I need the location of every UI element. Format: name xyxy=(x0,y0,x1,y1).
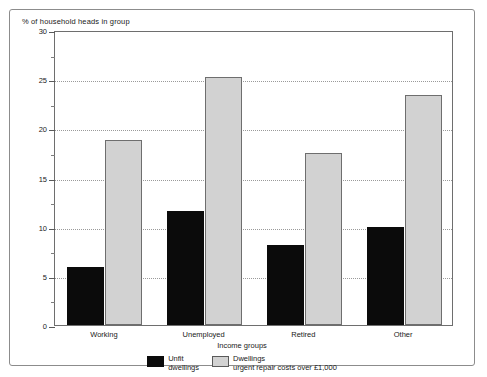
legend-swatch-unfit-dwellings xyxy=(147,356,164,367)
bar-unfit-dwellings xyxy=(167,211,204,325)
plot-area xyxy=(54,31,453,326)
chart-legend: UnfitdwellingsDwellingsurgent repair cos… xyxy=(10,355,474,372)
y-axis-tick-label: 5 xyxy=(43,272,47,281)
y-axis-tick-labels: 051015202530 xyxy=(28,31,47,326)
y-axis-tick-major xyxy=(49,327,55,328)
bar-group xyxy=(55,32,155,325)
bar-unfit-dwellings xyxy=(367,227,404,325)
bar-urgent-repair xyxy=(205,77,242,325)
bar-unfit-dwellings xyxy=(267,245,304,325)
bar-unfit-dwellings xyxy=(67,267,104,325)
legend-entry: Dwellingsurgent repair costs over £1,000 xyxy=(212,355,337,372)
legend-entry: Unfitdwellings xyxy=(147,355,199,372)
legend-label: Unfitdwellings xyxy=(168,355,199,372)
x-axis-category-label: Working xyxy=(90,330,117,339)
y-axis-tick-label: 10 xyxy=(39,223,47,232)
y-axis-tick-label: 0 xyxy=(43,322,47,331)
legend-label: Dwellingsurgent repair costs over £1,000 xyxy=(233,355,337,372)
bar-group xyxy=(255,32,355,325)
y-axis-tick-label: 25 xyxy=(39,76,47,85)
bar-urgent-repair xyxy=(305,153,342,325)
legend-swatch-urgent-repair xyxy=(212,356,229,367)
x-axis-category-label: Retired xyxy=(291,330,315,339)
chart-figure: % of household heads in group 0510152025… xyxy=(9,9,475,366)
bar-urgent-repair xyxy=(405,95,442,325)
y-axis-tick-label: 15 xyxy=(39,174,47,183)
bar-group xyxy=(155,32,255,325)
bar-urgent-repair xyxy=(105,140,142,325)
x-axis-category-label: Unemployed xyxy=(183,330,225,339)
y-axis-tick-label: 30 xyxy=(39,27,47,36)
x-axis-category-label: Other xyxy=(394,330,413,339)
bar-group xyxy=(354,32,454,325)
y-axis-tick-label: 20 xyxy=(39,125,47,134)
y-axis-caption: % of household heads in group xyxy=(22,17,130,26)
x-axis-title: Income groups xyxy=(10,341,474,350)
